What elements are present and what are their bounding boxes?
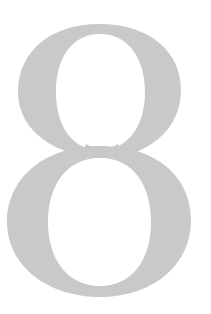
numeral-eight-glyph — [0, 0, 211, 314]
eight-shape — [7, 24, 191, 297]
numeral-canvas: 8 — [0, 0, 211, 314]
upper-bowl — [18, 24, 181, 156]
lower-bowl — [7, 146, 191, 297]
